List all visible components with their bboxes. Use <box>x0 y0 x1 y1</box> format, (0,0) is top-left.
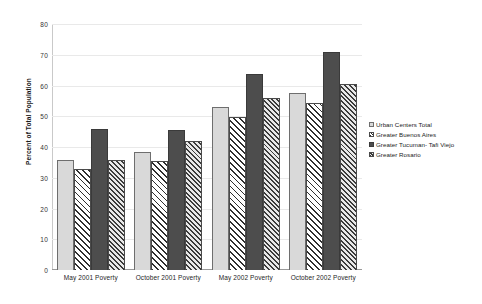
bar <box>168 130 185 270</box>
y-tick-30: 30 <box>2 174 48 181</box>
bar <box>108 160 125 270</box>
legend-swatch-icon <box>369 152 374 157</box>
bar-groups <box>52 24 362 270</box>
bar-group <box>207 24 285 270</box>
bar <box>340 84 357 270</box>
x-axis-labels: May 2001 PovertyOctober 2001 PovertyMay … <box>52 274 362 281</box>
y-tick-50: 50 <box>2 113 48 120</box>
legend-swatch-icon <box>369 122 374 127</box>
legend-item[interactable]: Urban Centers Total <box>369 120 479 129</box>
bar <box>91 129 108 270</box>
x-axis-label: October 2002 Poverty <box>285 274 363 281</box>
bar <box>229 117 246 270</box>
bar <box>151 161 168 270</box>
bar-group <box>285 24 363 270</box>
bar <box>263 98 280 270</box>
y-tick-80: 80 <box>2 21 48 28</box>
bar <box>306 103 323 270</box>
bar <box>289 93 306 270</box>
bar-group <box>52 24 130 270</box>
legend-label: Greater Buenos Aires <box>376 131 436 138</box>
bar-group <box>130 24 208 270</box>
x-axis-label: October 2001 Poverty <box>130 274 208 281</box>
bar <box>57 160 74 270</box>
y-tick-20: 20 <box>2 205 48 212</box>
bar <box>134 152 151 270</box>
legend-label: Greater Tucuman- Tafi Viejo <box>376 141 454 148</box>
bar <box>185 141 202 270</box>
bar-chart: Percent of Total Population 80 70 60 50 … <box>0 0 482 304</box>
y-axis-ticks: 80 70 60 50 40 30 20 10 0 <box>0 24 48 270</box>
y-tick-70: 70 <box>2 51 48 58</box>
y-tick-10: 10 <box>2 236 48 243</box>
legend: Urban Centers TotalGreater Buenos AiresG… <box>369 120 479 160</box>
bar <box>323 52 340 270</box>
bar <box>74 169 91 270</box>
legend-item[interactable]: Greater Rosario <box>369 150 479 159</box>
y-tick-40: 40 <box>2 144 48 151</box>
x-axis-label: May 2001 Poverty <box>52 274 130 281</box>
legend-item[interactable]: Greater Buenos Aires <box>369 130 479 139</box>
bar <box>246 74 263 270</box>
x-axis-label: May 2002 Poverty <box>207 274 285 281</box>
legend-label: Urban Centers Total <box>376 121 432 128</box>
legend-item[interactable]: Greater Tucuman- Tafi Viejo <box>369 140 479 149</box>
bar <box>212 107 229 270</box>
y-tick-60: 60 <box>2 82 48 89</box>
legend-swatch-icon <box>369 132 374 137</box>
legend-label: Greater Rosario <box>376 151 421 158</box>
y-tick-0: 0 <box>2 267 48 274</box>
plot-area <box>52 24 362 270</box>
legend-swatch-icon <box>369 142 374 147</box>
